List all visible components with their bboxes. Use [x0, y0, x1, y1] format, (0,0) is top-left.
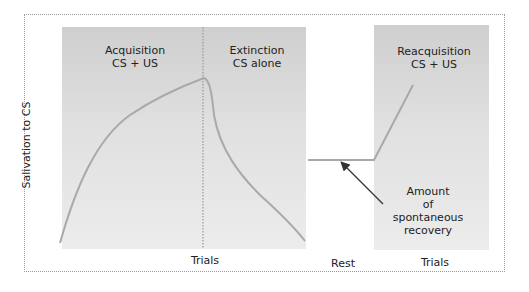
- rest-reacquisition-curve: [308, 85, 413, 160]
- extinction-label: Extinction CS alone: [222, 44, 292, 70]
- phase-condition: CS + US: [95, 57, 175, 70]
- annotation-line: spontaneous: [388, 211, 468, 224]
- spontaneous-recovery-arrow: [342, 163, 383, 204]
- reacquisition-label: Reacquisition CS + US: [394, 45, 474, 71]
- phase-name: Reacquisition: [394, 45, 474, 58]
- acquisition-label: Acquisition CS + US: [95, 44, 175, 70]
- phase-name: Extinction: [222, 44, 292, 57]
- phase-condition: CS + US: [394, 58, 474, 71]
- annotation-line: Amount: [388, 185, 468, 198]
- acquisition-extinction-curve: [60, 78, 305, 243]
- phase-name: Acquisition: [95, 44, 175, 57]
- annotation-line: recovery: [388, 224, 468, 237]
- x-label-rest: Rest: [323, 257, 363, 270]
- x-label-trials-right: Trials: [415, 256, 455, 269]
- x-label-trials-left: Trials: [185, 254, 225, 267]
- y-axis-label: Salivation to CS: [20, 102, 33, 189]
- annotation-line: of: [388, 198, 468, 211]
- spontaneous-recovery-annotation: Amount of spontaneous recovery: [388, 185, 468, 237]
- phase-condition: CS alone: [222, 57, 292, 70]
